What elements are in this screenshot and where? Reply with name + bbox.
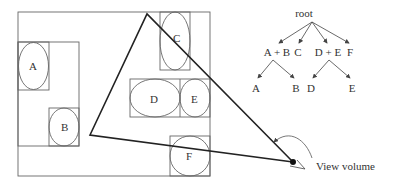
tree-node-a-plus-b: A + B xyxy=(264,46,290,58)
a-plus-b-bounding-box xyxy=(18,42,79,146)
tree-node-c: C xyxy=(294,46,301,58)
tree-node-d-plus-e: D + E xyxy=(315,46,342,58)
label-f: F xyxy=(186,150,192,162)
tree-leaf-d: D xyxy=(307,82,315,94)
tree-leaf-b: B xyxy=(292,82,299,94)
tree-leaf-a: A xyxy=(252,82,260,94)
tree-node-f: F xyxy=(347,46,353,58)
eye-point-icon xyxy=(290,159,296,165)
view-volume-label: View volume xyxy=(316,160,375,172)
scene xyxy=(18,12,210,176)
label-a: A xyxy=(29,60,37,72)
bvh-diagram: A B C D E F View volume root A + B C D +… xyxy=(0,0,395,182)
view-volume-callout-arrow xyxy=(274,136,312,158)
view-volume xyxy=(90,14,293,162)
label-b: B xyxy=(61,121,68,133)
label-e: E xyxy=(191,93,198,105)
root-bounding-box xyxy=(18,12,210,176)
d-plus-e-bounding-box xyxy=(130,79,210,117)
tree-root: root xyxy=(295,7,313,19)
hierarchy-tree: root A + B C D + E F A B D E xyxy=(252,7,356,94)
label-d: D xyxy=(150,93,158,105)
tree-leaf-e: E xyxy=(349,82,356,94)
